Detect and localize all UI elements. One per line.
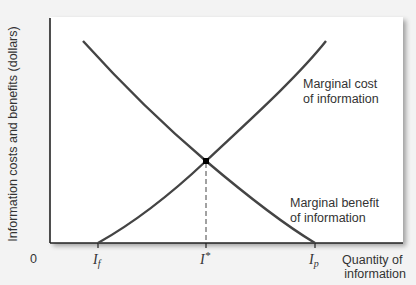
tick-label-istar: I* bbox=[199, 249, 211, 267]
x-axis-label: Quantity of information bbox=[342, 253, 406, 281]
y-axis-label: Information costs and benefits (dollars) bbox=[6, 26, 20, 241]
marginal-cost-label: Marginal cost of information bbox=[303, 77, 381, 106]
y-axis-label-container: Information costs and benefits (dollars) bbox=[2, 0, 24, 285]
chart-canvas: Marginal cost of information Marginal be… bbox=[0, 0, 416, 285]
tick-label-ip: Ip bbox=[308, 252, 319, 269]
origin-label: 0 bbox=[30, 252, 37, 266]
tick-label-if: If bbox=[92, 252, 102, 269]
equilibrium-point bbox=[203, 158, 209, 164]
